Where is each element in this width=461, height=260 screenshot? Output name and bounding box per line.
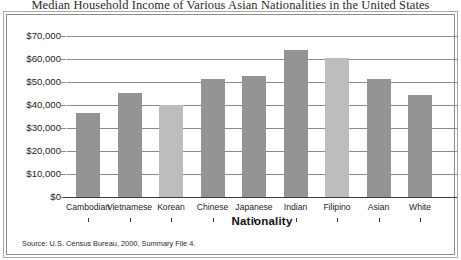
y-axis-tick (61, 174, 66, 175)
bar-asian (367, 79, 391, 197)
y-axis-tick (61, 105, 66, 106)
x-axis-category-labels: CambodianVietnameseKoreanChineseJapanese… (67, 201, 457, 215)
y-axis-tick (61, 82, 66, 83)
bar-korean (159, 105, 183, 197)
bar-indian (284, 50, 308, 197)
bar-chinese (201, 79, 225, 197)
y-axis-tick-label: $20,000 (9, 146, 61, 156)
chart-frame-inner: $70,000$60,000$50,000$40,000$30,000$20,0… (6, 14, 455, 255)
y-axis-tick (61, 36, 66, 37)
bar-series (67, 36, 457, 197)
plot-area (67, 36, 457, 197)
bar-japanese (242, 76, 266, 197)
y-axis-tick (61, 128, 66, 129)
y-axis-tick (61, 59, 66, 60)
y-axis-tick-label: $60,000 (9, 54, 61, 64)
x-axis-line (63, 197, 457, 198)
y-axis-tick-label: $50,000 (9, 77, 61, 87)
y-axis-tick-label: $30,000 (9, 123, 61, 133)
y-axis-tick-label: $70,000 (9, 31, 61, 41)
x-axis-title: Nationality (67, 215, 457, 227)
y-axis-labels: $70,000$60,000$50,000$40,000$30,000$20,0… (7, 36, 61, 197)
y-axis-tick (61, 151, 66, 152)
bar-white (408, 95, 432, 197)
source-note: Source: U.S. Census Bureau, 2000, Summar… (22, 239, 195, 248)
y-axis-tick-label: $0 (9, 192, 61, 202)
bar-vietnamese (118, 93, 142, 197)
bar-filipino (325, 58, 349, 197)
chart-frame-outer: $70,000$60,000$50,000$40,000$30,000$20,0… (3, 11, 458, 258)
chart-figure: Median Household Income of Various Asian… (0, 0, 461, 260)
y-axis-tick-label: $40,000 (9, 100, 61, 110)
y-axis-tick-label: $10,000 (9, 169, 61, 179)
x-axis-label-white: White (390, 201, 450, 213)
bar-cambodian (76, 113, 100, 197)
